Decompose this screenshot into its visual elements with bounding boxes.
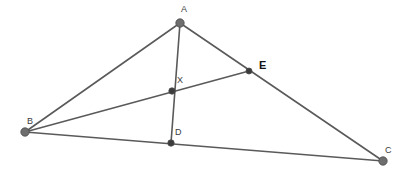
vertex-point-a (176, 19, 184, 27)
segments-group (25, 23, 383, 161)
segment-ab (25, 23, 180, 132)
segment-ac (180, 23, 383, 161)
vertex-point-x (169, 88, 175, 94)
points-group (21, 19, 387, 165)
vertex-label-a: A (181, 5, 187, 14)
vertex-point-b (21, 128, 29, 136)
vertex-point-e (246, 68, 252, 74)
vertex-point-d (168, 140, 174, 146)
vertex-label-c: C (385, 146, 392, 155)
vertex-label-x: X (177, 76, 183, 85)
vertex-label-b: B (27, 117, 33, 126)
segment-be (25, 71, 249, 132)
vertex-point-c (379, 157, 387, 165)
vertex-label-d: D (175, 128, 182, 137)
segment-bc (25, 132, 383, 161)
vertex-label-e: E (259, 60, 266, 71)
geometry-figure: ABCDEX (0, 0, 411, 176)
geometry-canvas (0, 0, 411, 176)
